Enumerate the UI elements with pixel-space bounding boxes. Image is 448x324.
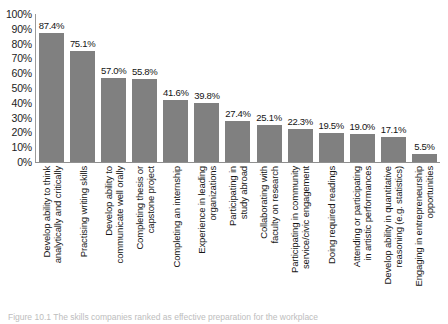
- y-axis: 100%90%80%70%60%50%40%30%20%10%0%: [0, 14, 34, 162]
- x-tick-label-slot: Develop ability to think analytically an…: [36, 166, 67, 316]
- bar[interactable]: [194, 103, 219, 162]
- x-tick-label-slot: Attending or participating in artistic p…: [347, 166, 378, 316]
- bar-value-label: 41.6%: [163, 87, 188, 98]
- bar-slot: 39.8%: [191, 14, 222, 162]
- x-tick-label-slot: Participating in study abroad: [222, 166, 253, 316]
- bar-slot: 27.4%: [222, 14, 253, 162]
- bar[interactable]: [163, 100, 188, 162]
- bar-value-label: 25.1%: [256, 112, 281, 123]
- x-tick-label-slot: Completing thesis or capstone project: [129, 166, 160, 316]
- bar-value-label: 87.4%: [39, 20, 64, 31]
- x-tick-label-slot: Engaging in entrepreneurship opportuniti…: [409, 166, 440, 316]
- bar-value-label: 22.3%: [287, 116, 312, 127]
- x-tick-label: Doing required readings: [326, 166, 337, 264]
- x-tick-label-slot: Collaborating with faculty on research: [254, 166, 285, 316]
- x-tick-label-slot: Experience in leading organizations: [191, 166, 222, 316]
- bar-slot: 17.1%: [378, 14, 409, 162]
- bar-slot: 57.0%: [98, 14, 129, 162]
- bar-slot: 5.5%: [409, 14, 440, 162]
- bar-slot: 75.1%: [67, 14, 98, 162]
- bar-slot: 22.3%: [285, 14, 316, 162]
- bar[interactable]: [257, 125, 282, 162]
- x-tick-label: Collaborating with faculty on research: [258, 166, 280, 243]
- y-tick-label: 10%: [12, 141, 32, 153]
- bar[interactable]: [39, 33, 64, 162]
- x-tick-label: Attending or participating in artistic p…: [351, 166, 373, 267]
- bar[interactable]: [225, 121, 250, 162]
- figure-caption: Figure 10.1 The skills companies ranked …: [8, 312, 440, 323]
- y-tick-label: 100%: [6, 8, 32, 20]
- x-tick-label: Completing an internship: [170, 166, 181, 268]
- x-tick-label: Develop ability in quantitative reasonin…: [382, 166, 404, 284]
- bar-value-label: 17.1%: [381, 124, 406, 135]
- bar[interactable]: [319, 133, 344, 162]
- bar-value-label: 55.8%: [132, 66, 157, 77]
- x-tick-label-slot: Develop ability to communicate well oral…: [98, 166, 129, 316]
- x-axis-line: [35, 162, 440, 163]
- bar-chart-figure: 100%90%80%70%60%50%40%30%20%10%0% 87.4%7…: [0, 0, 448, 324]
- bar-value-label: 75.1%: [70, 38, 95, 49]
- bar-slot: 19.0%: [347, 14, 378, 162]
- plot-area: 87.4%75.1%57.0%55.8%41.6%39.8%27.4%25.1%…: [36, 14, 440, 162]
- y-tick-label: 0%: [17, 156, 32, 168]
- bar-slot: 55.8%: [129, 14, 160, 162]
- x-tick-label: Participating in study abroad: [227, 166, 249, 226]
- y-tick-label: 80%: [12, 38, 32, 50]
- y-tick-label: 50%: [12, 82, 32, 94]
- bar-slot: 41.6%: [160, 14, 191, 162]
- y-tick-label: 40%: [12, 97, 32, 109]
- x-tick-label-slot: Participating in community service/civic…: [285, 166, 316, 316]
- bar[interactable]: [381, 137, 406, 162]
- bar-value-label: 19.0%: [350, 121, 375, 132]
- y-tick-label: 60%: [12, 67, 32, 79]
- bar[interactable]: [350, 134, 375, 162]
- x-tick-label-slot: Develop ability in quantitative reasonin…: [378, 166, 409, 316]
- x-tick-label: Develop ability to communicate well oral…: [103, 166, 125, 263]
- y-tick-label: 90%: [12, 23, 32, 35]
- bar[interactable]: [132, 79, 157, 162]
- x-tick-label: Completing thesis or capstone project: [134, 166, 156, 250]
- y-tick-label: 30%: [12, 112, 32, 124]
- x-tick-label: Experience in leading organizations: [196, 166, 218, 254]
- x-tick-label-slot: Completing an internship: [160, 166, 191, 316]
- x-tick-label-slot: Doing required readings: [316, 166, 347, 316]
- bar[interactable]: [288, 129, 313, 162]
- x-tick-label: Participating in community service/civic…: [289, 166, 311, 273]
- bar-slot: 25.1%: [254, 14, 285, 162]
- bar-value-label: 27.4%: [225, 108, 250, 119]
- y-tick-label: 70%: [12, 52, 32, 64]
- bar-value-label: 5.5%: [414, 141, 434, 152]
- bar-value-label: 19.5%: [319, 120, 344, 131]
- x-tick-label: Practising writing skills: [77, 166, 88, 257]
- bar-value-label: 57.0%: [101, 65, 126, 76]
- bar-value-label: 39.8%: [194, 90, 219, 101]
- x-axis-category-labels: Develop ability to think analytically an…: [36, 166, 440, 316]
- x-tick-label: Develop ability to think analytically an…: [41, 166, 63, 263]
- bar[interactable]: [101, 78, 126, 162]
- bar-slot: 87.4%: [36, 14, 67, 162]
- bar[interactable]: [70, 51, 95, 162]
- x-tick-label-slot: Practising writing skills: [67, 166, 98, 316]
- y-tick-label: 20%: [12, 126, 32, 138]
- x-tick-label: Engaging in entrepreneurship opportuniti…: [413, 166, 435, 286]
- bar-slot: 19.5%: [316, 14, 347, 162]
- bar[interactable]: [412, 154, 437, 162]
